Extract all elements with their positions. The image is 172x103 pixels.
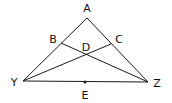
label-C: C bbox=[115, 33, 123, 46]
label-Y: Y bbox=[10, 76, 18, 89]
label-Z: Z bbox=[153, 77, 161, 90]
segment-BZ bbox=[61, 43, 148, 82]
point-E-dot bbox=[84, 81, 87, 84]
label-D: D bbox=[82, 41, 90, 54]
label-B: B bbox=[49, 33, 57, 46]
segment-AY bbox=[23, 18, 87, 81]
label-E: E bbox=[82, 89, 89, 102]
label-A: A bbox=[83, 2, 91, 15]
segment-YC bbox=[23, 44, 111, 81]
triangle-diagram: A B C D Y Z E bbox=[0, 0, 172, 103]
